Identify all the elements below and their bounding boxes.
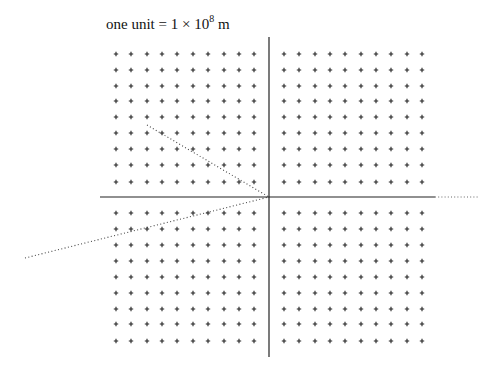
grid-plus-marker (297, 147, 301, 151)
grid-plus-marker (175, 227, 179, 231)
grid-plus-marker (328, 211, 332, 215)
grid-plus-marker (206, 68, 210, 72)
grid-plus-marker (389, 147, 393, 151)
grid-plus-marker (328, 163, 332, 167)
grid-plus-marker (282, 259, 286, 263)
grid-plus-marker (129, 52, 133, 56)
grid-plus-marker (343, 243, 347, 247)
grid-plus-marker (222, 275, 226, 279)
grid-plus-marker (282, 115, 286, 119)
grid-plus-marker (175, 131, 179, 135)
grid-plus-marker (222, 115, 226, 119)
grid-plus-marker (282, 147, 286, 151)
grid-plus-marker (114, 211, 118, 215)
grid-plus-marker (145, 243, 149, 247)
grid-plus-marker (359, 84, 363, 88)
grid-plus-marker (206, 259, 210, 263)
grid-plus-marker (359, 163, 363, 167)
grid-plus-marker (282, 68, 286, 72)
grid-plus-marker (222, 99, 226, 103)
grid-plus-marker (343, 68, 347, 72)
grid-plus-marker (237, 339, 241, 343)
grid-plus-marker (252, 84, 256, 88)
grid-plus-marker (374, 52, 378, 56)
grid-plus-marker (374, 339, 378, 343)
grid-plus-marker (191, 275, 195, 279)
grid-plus-marker (374, 259, 378, 263)
grid-plus-marker (420, 68, 424, 72)
grid-plus-marker (206, 322, 210, 326)
grid-plus-marker (145, 180, 149, 184)
grid-plus-marker (389, 291, 393, 295)
grid-plus-marker (297, 115, 301, 119)
grid-plus-marker (297, 84, 301, 88)
grid-plus-marker (191, 259, 195, 263)
grid-plus-marker (129, 307, 133, 311)
grid-plus-marker (237, 163, 241, 167)
grid-plus-marker (206, 131, 210, 135)
grid-plus-marker (343, 339, 347, 343)
grid-plus-marker (328, 291, 332, 295)
grid-plus-marker (282, 322, 286, 326)
grid-plus-marker (129, 180, 133, 184)
grid-plus-marker (252, 243, 256, 247)
grid-plus-marker (420, 115, 424, 119)
grid-plus-marker (222, 52, 226, 56)
grid-plus-marker (343, 84, 347, 88)
grid-plus-marker (145, 291, 149, 295)
grid-plus-marker (297, 322, 301, 326)
grid-plus-marker (313, 115, 317, 119)
grid-plus-marker (282, 243, 286, 247)
grid-plus-marker (145, 99, 149, 103)
grid-plus-marker (237, 68, 241, 72)
grid-plus-marker (374, 180, 378, 184)
grid-plus-marker (313, 322, 317, 326)
grid-plus-marker (389, 180, 393, 184)
grid-plus-marker (297, 243, 301, 247)
grid-plus-marker (129, 131, 133, 135)
grid-plus-marker (328, 339, 332, 343)
grid-plus-marker (282, 211, 286, 215)
grid-plus-marker (175, 307, 179, 311)
grid-plus-marker (175, 243, 179, 247)
grid-plus-marker (343, 147, 347, 151)
grid-plus-marker (374, 99, 378, 103)
grid-plus-marker (145, 275, 149, 279)
grid-plus-marker (252, 275, 256, 279)
grid-plus-marker (206, 147, 210, 151)
grid-plus-marker (252, 52, 256, 56)
grid-plus-marker (374, 291, 378, 295)
grid-plus-marker (129, 227, 133, 231)
grid-plus-marker (328, 84, 332, 88)
grid-plus-marker (313, 291, 317, 295)
grid-plus-marker (389, 307, 393, 311)
grid-plus-marker (114, 52, 118, 56)
grid-plus-marker (297, 68, 301, 72)
grid-plus-marker (313, 275, 317, 279)
grid-plus-marker (129, 84, 133, 88)
grid-plus-marker (297, 131, 301, 135)
grid-plus-marker (222, 243, 226, 247)
grid-plus-marker (222, 131, 226, 135)
grid-plus-marker (405, 227, 409, 231)
grid-plus-marker (175, 211, 179, 215)
grid-plus-marker (282, 275, 286, 279)
grid-plus-marker (114, 227, 118, 231)
grid-plus-marker (389, 84, 393, 88)
grid-plus-marker (222, 227, 226, 231)
grid-plus-marker (129, 243, 133, 247)
grid-plus-marker (359, 291, 363, 295)
grid-plus-marker (206, 115, 210, 119)
grid-plus-marker (313, 99, 317, 103)
grid-plus-marker (282, 307, 286, 311)
grid-plus-marker (359, 243, 363, 247)
grid-plus-marker (114, 84, 118, 88)
grid-plus-marker (343, 180, 347, 184)
grid-plus-marker (175, 291, 179, 295)
grid-plus-marker (252, 68, 256, 72)
grid-plus-marker (191, 52, 195, 56)
grid-plus-marker (359, 115, 363, 119)
grid-plus-marker (359, 52, 363, 56)
grid-plus-marker (206, 52, 210, 56)
grid-plus-marker (191, 84, 195, 88)
